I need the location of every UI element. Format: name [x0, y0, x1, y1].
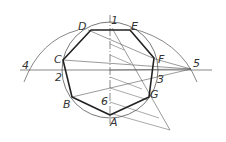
label-D: D — [78, 21, 86, 32]
label-5: 5 — [193, 58, 200, 69]
label-2: 2 — [55, 72, 62, 83]
construction-line — [72, 69, 191, 97]
label-4: 4 — [22, 60, 29, 71]
label-F: F — [158, 54, 164, 65]
label-B: B — [63, 99, 71, 110]
label-3: 3 — [157, 74, 164, 85]
diagram-canvas: 1 D E C F 4 5 2 3 B G 6 A — [0, 0, 226, 142]
heptagon — [63, 30, 154, 115]
label-E: E — [131, 21, 138, 32]
parallel-line — [113, 114, 170, 130]
parallel-line — [110, 88, 148, 100]
left-arc — [24, 30, 78, 82]
label-6: 6 — [101, 96, 108, 107]
label-G: G — [150, 89, 159, 100]
construction-line — [63, 60, 191, 69]
label-A: A — [110, 117, 118, 128]
construction-line — [88, 30, 155, 59]
label-C: C — [54, 54, 62, 65]
label-1: 1 — [111, 15, 118, 26]
